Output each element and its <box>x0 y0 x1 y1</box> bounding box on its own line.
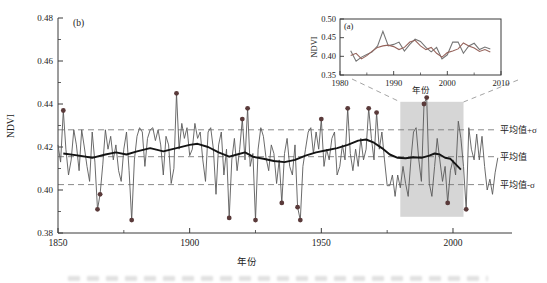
main-y-axis-label: NDVI <box>6 114 16 138</box>
extreme-marker <box>129 218 134 223</box>
extreme-marker <box>227 216 232 221</box>
inset-x-tick-label: 2000 <box>439 78 456 88</box>
extreme-marker <box>464 207 469 212</box>
inset-y-tick-label: 0.45 <box>321 32 336 42</box>
main-y-tick-label: 0.46 <box>37 56 53 66</box>
main-x-tick-label: 1950 <box>312 238 331 248</box>
extreme-marker <box>374 110 379 115</box>
extreme-marker <box>253 218 258 223</box>
main-chart: 0.380.400.420.440.460.481850190019502000… <box>6 13 537 267</box>
reconstructed-ndvi-line <box>351 40 491 59</box>
ref-label-mean: 平均值 <box>500 151 527 162</box>
inset-x-tick-label: 1990 <box>385 78 402 88</box>
inset-series-lines <box>351 31 491 61</box>
inset-x-axis-label: 年份 <box>412 85 430 95</box>
main-x-tick-label: 1850 <box>49 238 68 248</box>
extreme-marker <box>295 205 300 210</box>
inset-x-tick-label: 2010 <box>493 78 510 88</box>
extreme-marker <box>240 117 245 122</box>
main-y-tick-label: 0.38 <box>37 228 53 238</box>
main-y-tick-label: 0.48 <box>37 13 53 23</box>
extreme-marker <box>366 106 371 111</box>
extreme-marker <box>298 218 303 223</box>
main-y-tick-label: 0.40 <box>37 185 53 195</box>
extreme-marker <box>319 117 324 122</box>
inset-y-axis-label: NDVI <box>309 36 319 57</box>
main-panel-label: (b) <box>73 18 84 29</box>
ndvi-figure: 0.380.400.420.440.460.481850190019502000… <box>0 0 547 283</box>
extreme-marker <box>424 95 429 100</box>
extreme-marker <box>422 102 427 107</box>
main-y-tick-label: 0.44 <box>37 99 53 109</box>
main-x-tick-label: 1900 <box>180 238 199 248</box>
inset-y-tick-label: 0.40 <box>321 51 336 61</box>
extreme-marker <box>279 201 284 206</box>
extreme-marker <box>174 91 179 96</box>
extreme-marker <box>345 106 350 111</box>
extreme-marker <box>98 192 103 197</box>
ref-label-mean-minus-sigma: 平均值-σ <box>500 179 535 190</box>
extreme-marker <box>61 108 66 113</box>
inset-panel-label: (a) <box>344 21 354 31</box>
inset-y-tick-label: 0.50 <box>321 14 336 24</box>
extreme-marker <box>95 207 100 212</box>
inset-chart: 0.350.400.450.501980199020002010 (a) NDV… <box>309 14 510 95</box>
ref-label-mean-plus-sigma: 平均值+σ <box>500 124 537 135</box>
inset-x-tick-label: 1980 <box>332 78 349 88</box>
extreme-marker <box>245 106 250 111</box>
connector-right <box>464 80 519 102</box>
main-x-axis-label: 年份 <box>237 256 257 267</box>
main-x-tick-label: 2000 <box>443 238 462 248</box>
main-y-tick-label: 0.42 <box>37 142 53 152</box>
highlight-region <box>400 102 463 217</box>
cropped-caption-text <box>68 276 488 281</box>
figure-svg: 0.380.400.420.440.460.481850190019502000… <box>0 0 547 283</box>
satellite-era-highlight <box>400 102 463 217</box>
extreme-marker <box>445 201 450 206</box>
